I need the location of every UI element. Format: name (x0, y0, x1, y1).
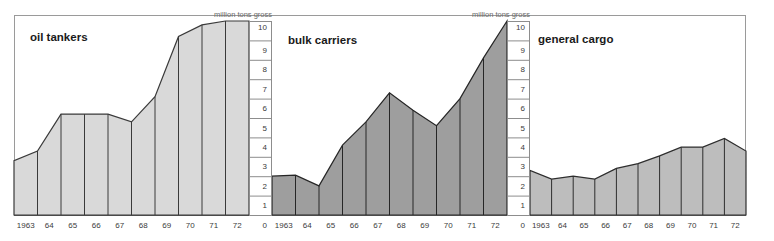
x-tick-label: 68 (397, 221, 406, 230)
x-tick-label: 1963 (532, 221, 550, 230)
x-tick-label: 72 (491, 221, 500, 230)
y-tick-label: 8 (263, 65, 268, 74)
x-tick-label: 64 (45, 221, 54, 230)
y-tick-label: 6 (521, 104, 526, 113)
x-tick-label: 71 (467, 221, 476, 230)
y-tick-label: 3 (263, 162, 268, 171)
x-tick-label: 65 (326, 221, 335, 230)
x-tick-label: 70 (688, 221, 697, 230)
x-tick-label: 66 (92, 221, 101, 230)
x-tick-label: 64 (303, 221, 312, 230)
chart-panel-1: oil tankers1963646566676869707172 (14, 21, 249, 230)
x-tick-label: 1963 (17, 221, 35, 230)
y-tick-label: 5 (263, 124, 268, 133)
axis-caption: million tons gross (472, 10, 530, 19)
x-tick-label: 67 (373, 221, 382, 230)
x-tick-label: 64 (558, 221, 567, 230)
x-tick-label: 70 (444, 221, 453, 230)
x-tick-label: 68 (644, 221, 653, 230)
panel-title-3: general cargo (538, 33, 613, 45)
x-tick-label: 70 (186, 221, 195, 230)
x-tick-label: 65 (68, 221, 77, 230)
y-tick-label: 10 (258, 23, 267, 32)
y-tick-label: 3 (521, 162, 526, 171)
x-tick-label: 72 (731, 221, 740, 230)
x-tick-label: 69 (420, 221, 429, 230)
x-tick-label: 71 (709, 221, 718, 230)
y-tick-label: 10 (516, 23, 525, 32)
x-tick-label: 66 (350, 221, 359, 230)
y-tick-label: 6 (263, 104, 268, 113)
chart-canvas: oil tankers1963646566676869707172bulk ca… (0, 0, 774, 241)
y-tick-label: 0 (521, 221, 526, 230)
x-tick-label: 68 (139, 221, 148, 230)
x-tick-label: 66 (601, 221, 610, 230)
x-tick-label: 69 (666, 221, 675, 230)
y-tick-label: 4 (263, 143, 268, 152)
y-tick-label: 2 (521, 182, 526, 191)
y-tick-label: 1 (521, 201, 526, 210)
y-tick-label: 0 (263, 221, 268, 230)
y-tick-label: 9 (521, 46, 526, 55)
y-tick-label: 9 (263, 46, 268, 55)
y-tick-label: 2 (263, 182, 268, 191)
x-tick-label: 1963 (275, 221, 293, 230)
y-tick-label: 8 (521, 65, 526, 74)
panel-title-1: oil tankers (30, 31, 88, 43)
y-tick-label: 7 (521, 85, 526, 94)
y-tick-label: 5 (521, 124, 526, 133)
axis-caption: million tons gross (214, 10, 272, 19)
shipbuilding-area-chart-figure: oil tankers1963646566676869707172bulk ca… (0, 0, 774, 241)
x-tick-label: 71 (209, 221, 218, 230)
y-tick-label: 4 (521, 143, 526, 152)
y-tick-label: 7 (263, 85, 268, 94)
chart-panel-2: bulk carriers1963646566676869707172 (272, 21, 507, 230)
chart-panel-3: general cargo1963646566676869707172 (530, 33, 746, 230)
y-tick-label: 1 (263, 201, 268, 210)
x-tick-label: 67 (623, 221, 632, 230)
x-tick-label: 69 (162, 221, 171, 230)
panel-title-2: bulk carriers (288, 34, 357, 46)
x-tick-label: 65 (580, 221, 589, 230)
x-tick-label: 67 (115, 221, 124, 230)
x-tick-label: 72 (233, 221, 242, 230)
